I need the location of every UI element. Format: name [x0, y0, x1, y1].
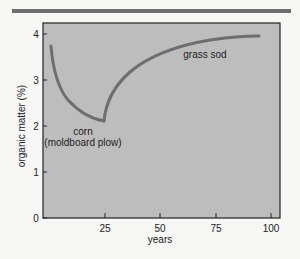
- x-tick-50: 50: [154, 223, 166, 234]
- grass-sod-label: grass sod: [183, 49, 226, 60]
- x-tick-25: 25: [99, 223, 111, 234]
- y-tick-0: 0: [33, 213, 39, 224]
- moldboard-plow-label: (moldboard plow): [44, 137, 121, 148]
- y-tick-4: 4: [33, 29, 39, 40]
- y-tick-3: 3: [33, 75, 39, 86]
- x-axis-title: years: [148, 234, 172, 245]
- organic-matter-chart: 0 1 2 3 4 organic matter (%) 25 50 75 10…: [0, 0, 300, 259]
- corn-label: corn: [73, 126, 92, 137]
- x-tick-75: 75: [210, 223, 222, 234]
- x-tick-100: 100: [263, 223, 280, 234]
- y-axis: 0 1 2 3 4 organic matter (%): [16, 29, 47, 224]
- y-axis-title: organic matter (%): [16, 85, 27, 167]
- y-tick-2: 2: [33, 121, 39, 132]
- y-tick-1: 1: [33, 167, 39, 178]
